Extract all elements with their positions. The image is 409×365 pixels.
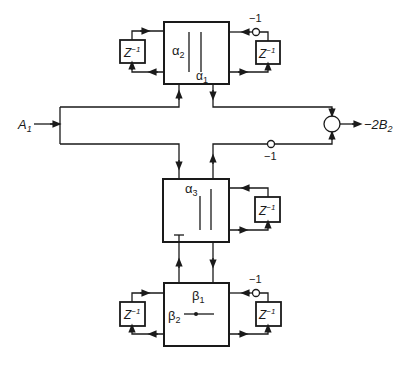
svg-text:−1: −1 xyxy=(264,150,277,162)
bottom-block: β1 β2 xyxy=(164,283,229,346)
summing-node xyxy=(324,116,340,132)
interconnect: A1 −1 −2B2 xyxy=(17,84,393,179)
top-block: α2 α1 xyxy=(164,22,229,85)
signal-flow-diagram: α2 α1 Z−1 Z−1 −1 A1 xyxy=(0,0,409,365)
inverter-node xyxy=(253,29,260,36)
delay-bottom-left: Z−1 xyxy=(120,293,164,334)
svg-text:−1: −1 xyxy=(249,273,262,285)
delay-top-right: Z−1 −1 xyxy=(229,12,280,72)
inverter-node xyxy=(253,290,260,297)
delay-bottom-right: Z−1 −1 xyxy=(229,273,281,334)
middle-block: α3 xyxy=(163,179,229,242)
svg-text:−2B2: −2B2 xyxy=(364,117,393,134)
inverter-node xyxy=(268,141,275,148)
delay-top-left: Z−1 xyxy=(120,31,164,72)
svg-text:−1: −1 xyxy=(249,12,262,24)
svg-text:A1: A1 xyxy=(17,117,32,134)
delay-middle: Z−1 xyxy=(229,188,280,230)
